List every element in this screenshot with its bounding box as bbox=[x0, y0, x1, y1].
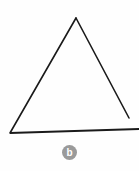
panel-label-badge: b bbox=[62, 145, 77, 160]
panel-label-letter: b bbox=[66, 148, 72, 158]
figure-panel: b bbox=[0, 0, 139, 171]
